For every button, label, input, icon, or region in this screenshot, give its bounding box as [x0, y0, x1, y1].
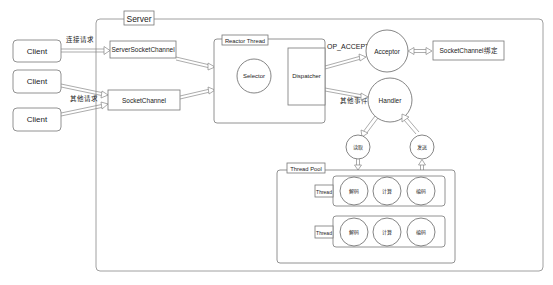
client-3: Client [13, 108, 61, 131]
selector-label: Selector [243, 73, 265, 79]
svg-text:SocketChannel: SocketChannel [122, 97, 167, 104]
task-compute: 计算 [382, 188, 392, 195]
task-encode: 编码 [416, 229, 426, 236]
client-arrows [61, 47, 110, 117]
thread-pool-label: Thread Pool [290, 166, 322, 172]
svg-text:Acceptor: Acceptor [374, 48, 400, 56]
op-accept-label: OP_ACCEPT [327, 43, 370, 51]
task-decode: 解码 [349, 229, 359, 236]
svg-text:ServerSocketChannel: ServerSocketChannel [111, 46, 175, 53]
reactor-thread-label: Reactor Thread [225, 38, 265, 44]
socket-channel-binding: SocketChannel绑定 [433, 41, 504, 60]
task-encode: 编码 [416, 188, 426, 195]
thread-row-2: Thread 解码 计算 编码 [315, 216, 445, 247]
pool-io-arrows [355, 159, 426, 170]
svg-text:读取: 读取 [353, 144, 363, 151]
svg-text:Client: Client [27, 77, 48, 86]
send-node: 发送 [410, 135, 434, 159]
svg-text:SocketChannel绑定: SocketChannel绑定 [439, 46, 497, 55]
other-request-label: 其他请求 [70, 94, 98, 103]
acceptor-binding-arrow [408, 48, 432, 55]
client-1: Client [13, 40, 61, 62]
reactor-thread: Reactor Thread Selector Dispatcher [214, 35, 325, 123]
svg-text:Thread: Thread [316, 189, 332, 195]
acceptor-node: Acceptor [366, 30, 408, 72]
svg-text:Client: Client [27, 47, 48, 56]
task-compute: 计算 [382, 229, 392, 236]
server-label: Server [126, 14, 151, 24]
reactor-diagram: Server Client Client Client 连接请求 其他请求 Se… [0, 0, 553, 285]
svg-text:Thread: Thread [316, 230, 332, 236]
thread-pool: Thread Pool Thread 解码 计算 编码 Thread 解码 计算… [277, 163, 455, 263]
socket-channel: SocketChannel [108, 90, 180, 110]
client-2: Client [13, 70, 61, 93]
svg-text:Handler: Handler [379, 97, 403, 104]
connect-request-label: 连接请求 [66, 35, 94, 44]
task-decode: 解码 [349, 188, 359, 195]
svg-text:Client: Client [27, 115, 48, 124]
thread-row-1: Thread 解码 计算 编码 [315, 176, 445, 206]
read-node: 读取 [346, 135, 370, 159]
dispatch-arrows [325, 54, 368, 100]
server-socket-channel: ServerSocketChannel [110, 41, 176, 58]
channel-to-reactor-arrows [176, 57, 215, 99]
dispatcher-label: Dispatcher [292, 73, 321, 79]
svg-text:发送: 发送 [417, 144, 427, 151]
